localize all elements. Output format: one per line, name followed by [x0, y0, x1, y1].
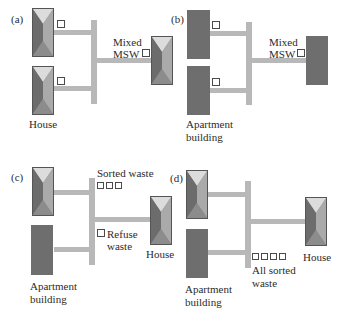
- source-label: building: [30, 293, 67, 305]
- house-icon: [32, 66, 54, 115]
- sorted-waste-bins: [97, 182, 122, 189]
- refuse-label: Refuse: [107, 228, 138, 240]
- house-icon: [32, 8, 54, 57]
- waste-bin-icon: [252, 253, 259, 260]
- waste-bin-icon: [115, 182, 122, 189]
- panel-d-label: (d): [170, 172, 183, 184]
- destination-house-icon: [305, 197, 327, 246]
- waste-bin-icon: [57, 77, 65, 85]
- sorted-waste-label: waste: [252, 277, 277, 289]
- destination-label: House: [146, 248, 174, 260]
- panel-c-label: (c): [11, 171, 23, 183]
- collection-pipe: [208, 192, 246, 197]
- source-label: Apartment: [30, 280, 77, 292]
- waste-bin-icon: [279, 253, 286, 260]
- source-label: Apartment: [185, 283, 232, 295]
- sorted-waste-label: Sorted waste: [97, 167, 154, 179]
- sorted-waste-bins: [252, 253, 286, 260]
- apartment-building-icon: [31, 225, 53, 275]
- sorted-waste-label: All sorted: [252, 264, 296, 276]
- refuse-label: waste: [107, 240, 132, 252]
- source-label: Apartment: [186, 118, 233, 130]
- main-collection-line: [251, 219, 305, 224]
- source-label: building: [186, 131, 223, 143]
- destination-apartment-icon: [306, 36, 328, 85]
- destination-house-icon: [151, 36, 173, 85]
- collection-label: Mixed: [113, 36, 142, 48]
- collection-pipe: [54, 30, 92, 35]
- source-label: building: [185, 296, 222, 308]
- panel-b-label: (b): [171, 13, 184, 25]
- waste-bin-icon: [297, 49, 305, 57]
- destination-house-icon: [150, 196, 172, 245]
- waste-bin-icon: [261, 253, 268, 260]
- collection-pipe: [54, 190, 90, 195]
- house-icon: [32, 167, 54, 216]
- source-label: House: [29, 118, 57, 130]
- collection-label: Mixed: [269, 36, 298, 48]
- apartment-building-icon: [186, 229, 208, 278]
- collection-trunk: [246, 22, 252, 105]
- collection-label: MSW: [269, 48, 295, 60]
- waste-bin-icon: [97, 182, 104, 189]
- collection-pipe: [54, 86, 92, 91]
- waste-bin-icon: [270, 253, 277, 260]
- panel-a-label: (a): [11, 13, 23, 25]
- collection-pipe: [208, 250, 246, 255]
- waste-bin-icon: [212, 21, 220, 29]
- refuse-bin-icon: [97, 229, 105, 237]
- destination-label: House: [303, 251, 331, 263]
- collection-trunk: [245, 181, 251, 268]
- apartment-building-icon: [187, 66, 210, 115]
- waste-bin-icon: [142, 49, 150, 57]
- main-collection-line: [95, 217, 151, 222]
- collection-pipe: [210, 31, 247, 36]
- collection-pipe: [54, 247, 90, 252]
- waste-bin-icon: [212, 78, 220, 86]
- collection-pipe: [210, 88, 247, 93]
- collection-label: MSW: [113, 48, 139, 60]
- waste-bin-icon: [57, 20, 65, 28]
- apartment-building-icon: [187, 10, 210, 59]
- house-icon: [186, 170, 208, 219]
- waste-bin-icon: [106, 182, 113, 189]
